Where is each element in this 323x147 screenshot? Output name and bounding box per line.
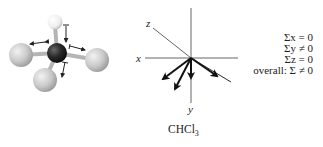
formula-caption: CHCl3	[168, 123, 199, 138]
x-axis-label: x	[135, 52, 141, 64]
z-axis-line	[153, 28, 191, 58]
formula-subscript: 3	[195, 129, 199, 138]
atom-hydrogen	[48, 15, 63, 30]
dipole-arrow-left	[30, 42, 45, 44]
dipole-arrow-bottom-cross	[62, 62, 68, 63]
sum-overall: overall: Σ ≠ 0	[253, 64, 313, 76]
resultant-guide-line	[191, 58, 231, 82]
vector-left	[163, 58, 191, 79]
atom-chlorine-bottom	[33, 68, 57, 92]
dipole-arrow-bottom	[62, 62, 65, 77]
z-axis-label: z	[145, 17, 151, 29]
y-axis-label: y	[187, 103, 193, 115]
dipole-moment-figure: x y z CHCl3 Σx = 0 Σy ≠ 0 Σz = 0 overall…	[0, 0, 323, 147]
figure-canvas: x y z CHCl3 Σx = 0 Σy ≠ 0 Σz = 0 overall…	[0, 0, 323, 147]
vector-bottom-left	[175, 58, 191, 89]
atom-chlorine-left	[9, 43, 33, 67]
molecule-model	[9, 15, 109, 93]
atom-carbon	[47, 43, 67, 63]
atom-chlorine-right	[85, 48, 109, 72]
sum-statements: Σx = 0 Σy ≠ 0 Σz = 0 overall: Σ ≠ 0	[253, 31, 313, 76]
dipole-arrow-right-cross	[69, 44, 70, 49]
dipole-vectors	[163, 58, 231, 89]
dipole-arrow-right	[70, 46, 85, 50]
formula-main: CHCl	[168, 123, 195, 135]
